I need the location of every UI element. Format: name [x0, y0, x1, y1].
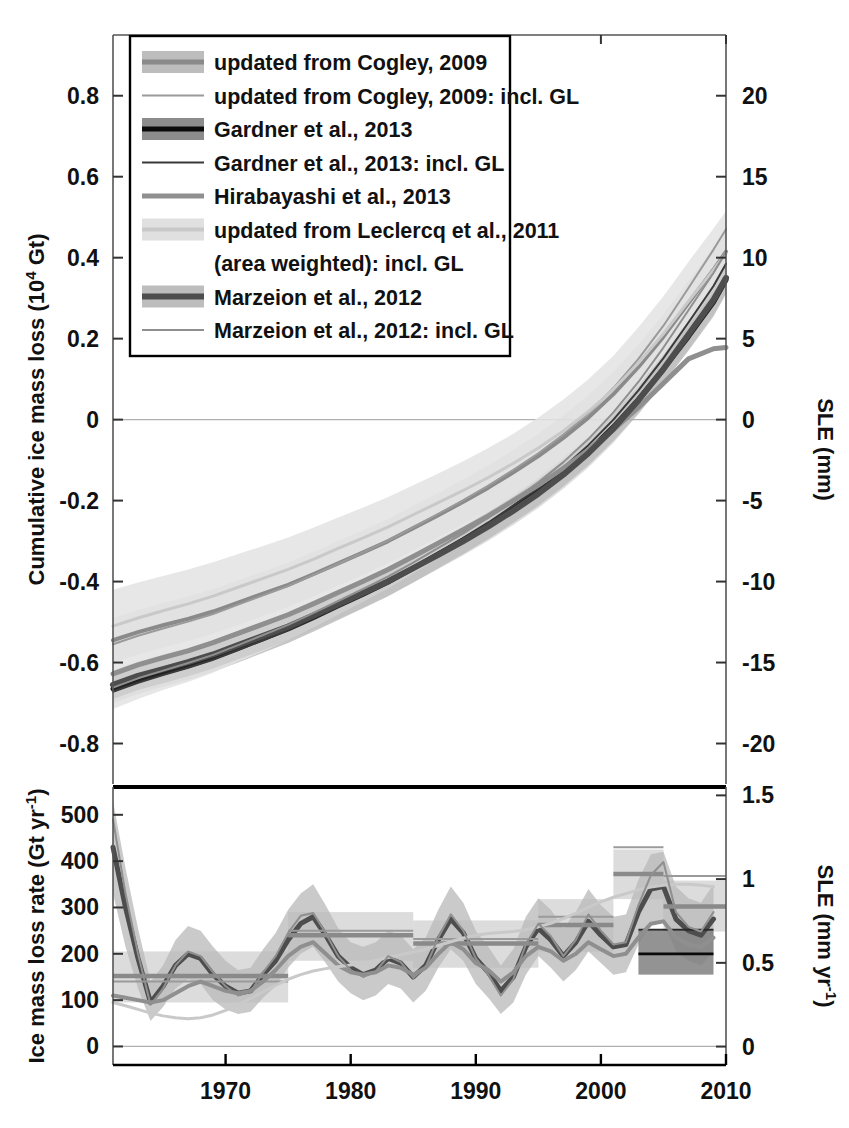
panel1-yticklabel-right: 20: [742, 83, 768, 109]
panel2-yticklabel: 400: [61, 848, 99, 874]
panel1-yticklabel: 0.2: [67, 326, 99, 352]
panel1-yticklabel: 0: [86, 407, 99, 433]
panel2-ylabel-right: SLE (mm yr-1): [813, 865, 840, 1008]
panel1-ylabel-right: SLE (mm): [813, 398, 838, 501]
panel1-yticklabel: -0.2: [59, 488, 99, 514]
panel2-yticklabel-right: 1.5: [742, 782, 774, 808]
legend-label-4: Hirabayashi et al., 2013: [214, 185, 451, 209]
panel1-ylabel-left: Cumulative ice mass loss (104 Gt): [22, 234, 49, 586]
panel2-yticklabel: 300: [61, 894, 99, 920]
rate-panel: 010020030040050000.511.51970198019902000…: [22, 782, 840, 1104]
panel1-ylabel-right-text: SLE (mm): [813, 398, 838, 501]
panel2-xticklabel: 1980: [325, 1078, 376, 1104]
panel1-yticklabel-right: -10: [742, 569, 775, 595]
panel1-yticklabel-right: -20: [742, 731, 775, 757]
panel1-yticklabel-right: -5: [742, 488, 763, 514]
panel2-xticklabel: 2000: [575, 1078, 626, 1104]
panel1-yticklabel: -0.6: [59, 650, 99, 676]
legend-item-6[interactable]: (area weighted): incl. GL: [214, 252, 464, 276]
legend-label-7: Marzeion et al., 2012: [214, 286, 422, 310]
panel1-yticklabel: -0.4: [59, 569, 99, 595]
panel1-yticklabel-right: -15: [742, 650, 775, 676]
panel2-yticklabel: 500: [61, 802, 99, 828]
figure-svg: -0.8-0.6-0.4-0.200.20.40.60.8-20-15-10-5…: [0, 0, 849, 1128]
figure-root: -0.8-0.6-0.4-0.200.20.40.60.8-20-15-10-5…: [0, 0, 849, 1128]
panel1-yticklabel-right: 0: [742, 407, 755, 433]
panel2-yticklabel-right: 1: [742, 866, 755, 892]
legend-item-7[interactable]: Marzeion et al., 2012: [142, 286, 422, 310]
panel1-yticklabel: 0.4: [67, 245, 99, 271]
panel2-yticklabel-right: 0.5: [742, 950, 774, 976]
panel1-ylabel-text: Cumulative ice mass loss (104 Gt): [22, 234, 49, 586]
panel2-ylabel-text: Ice mass loss rate (Gt yr-1): [22, 788, 49, 1063]
panel1-yticklabel-right: 10: [742, 245, 768, 271]
legend-label-3: Gardner et al., 2013: incl. GL: [214, 152, 504, 176]
panel1-yticklabel: -0.8: [59, 731, 99, 757]
panel1-yticklabel: 0.6: [67, 164, 99, 190]
panel2-yticklabel: 200: [61, 941, 99, 967]
panel2-yticklabel-right: 0: [742, 1034, 755, 1060]
legend-item-2[interactable]: Gardner et al., 2013: [142, 118, 412, 142]
legend-label-0: updated from Cogley, 2009: [214, 51, 487, 75]
panel2-yticklabel: 0: [86, 1033, 99, 1059]
panel2-ylabel-right-text: SLE (mm yr-1): [813, 865, 840, 1008]
panel2-ylabel-left: Ice mass loss rate (Gt yr-1): [22, 788, 49, 1063]
legend-label-8: Marzeion et al., 2012: incl. GL: [214, 319, 514, 343]
panel2-xticklabel: 1990: [450, 1078, 501, 1104]
legend-label-5: updated from Leclercq et al., 2011: [214, 219, 559, 243]
panel2-yticklabel: 100: [61, 987, 99, 1013]
legend-label-2: Gardner et al., 2013: [214, 118, 412, 142]
panel1-yticklabel-right: 15: [742, 164, 768, 190]
panel1-yticklabel-right: 5: [742, 326, 755, 352]
panel2-xticklabel: 2010: [700, 1078, 751, 1104]
legend-item-0[interactable]: updated from Cogley, 2009: [142, 51, 487, 75]
panel2-xticklabel: 1970: [200, 1078, 251, 1104]
legend-label-1: updated from Cogley, 2009: incl. GL: [214, 85, 579, 109]
panel1-yticklabel: 0.8: [67, 83, 99, 109]
legend-label-6: (area weighted): incl. GL: [214, 252, 464, 276]
